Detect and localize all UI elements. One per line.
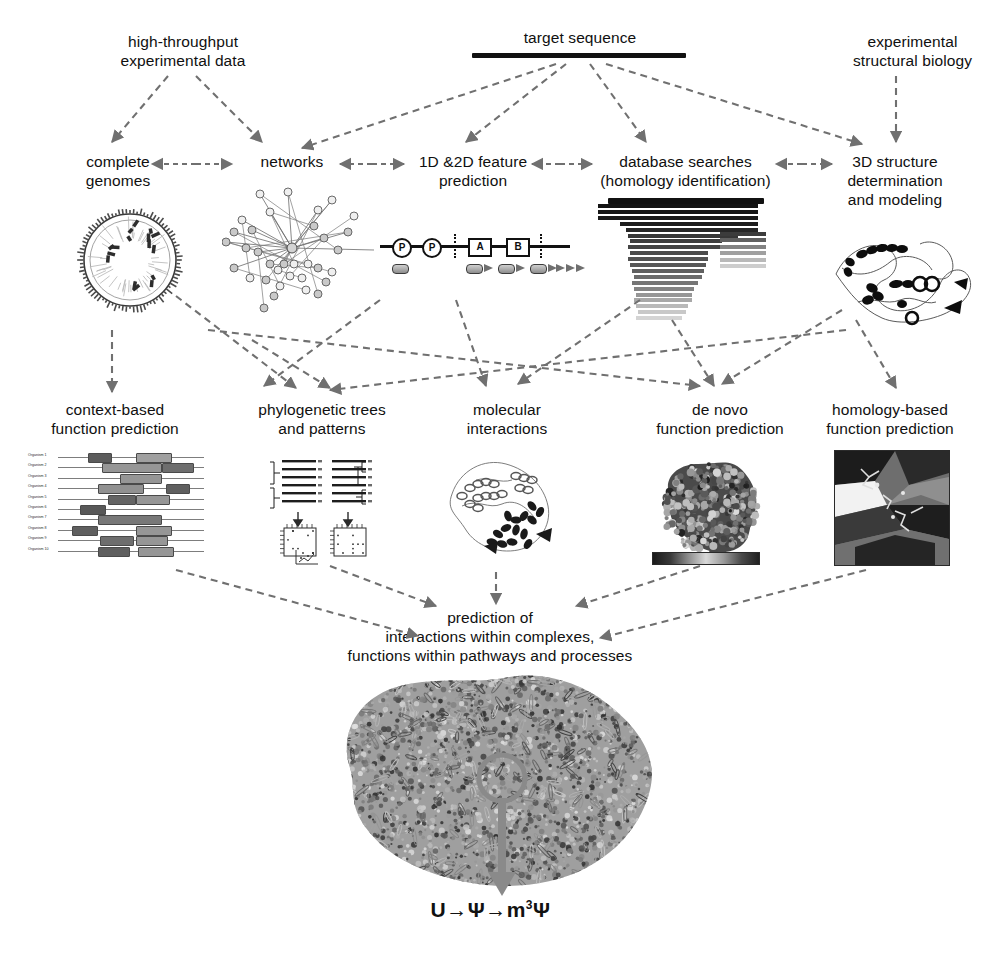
phospho-site-1: P xyxy=(392,238,412,258)
blast-hit-bar xyxy=(636,304,688,308)
strand-arrow xyxy=(556,264,565,272)
gene-box xyxy=(136,526,172,536)
homology-model-closeup xyxy=(834,450,950,566)
helix-cylinder xyxy=(498,264,515,274)
page-title: target sequence xyxy=(470,28,690,47)
organism-label: Organism 1 xyxy=(28,453,47,457)
gene-box xyxy=(80,505,106,515)
gene-box xyxy=(98,547,130,557)
chem-sup: 3 xyxy=(526,898,533,912)
organism-label: Organism 7 xyxy=(28,515,47,519)
gene-box xyxy=(72,526,98,536)
gene-box xyxy=(102,463,162,473)
strand-arrow xyxy=(484,264,493,272)
molecular-complex-ribbon xyxy=(432,450,564,562)
modification-site-circle xyxy=(290,672,690,912)
blast-hit-bar-secondary xyxy=(720,245,766,249)
organism-label: Organism 9 xyxy=(28,536,47,540)
gene-box xyxy=(100,536,134,546)
label-feature-prediction: 1D &2D feature prediction xyxy=(398,152,548,190)
organism-label: Organism 4 xyxy=(28,484,47,488)
blast-hit-bar-secondary xyxy=(720,232,766,236)
gene-box xyxy=(108,495,136,505)
blast-hit-bar-secondary xyxy=(720,251,766,255)
strand-arrow xyxy=(566,264,575,272)
blast-hit-bar xyxy=(634,275,702,279)
blast-hit-bar xyxy=(598,210,758,214)
strand-arrow xyxy=(576,264,585,272)
blast-hit-bar xyxy=(628,245,726,249)
blast-hit-bar xyxy=(634,287,694,291)
blast-hit-bar xyxy=(636,293,692,297)
domain-b: B xyxy=(506,238,530,257)
label-high-throughput: high-throughput experimental data xyxy=(88,32,278,70)
diagram-canvas: high-throughput experimental data target… xyxy=(0,0,981,957)
blast-hit-bar xyxy=(638,310,686,314)
organism-label: Organism 5 xyxy=(28,495,47,499)
blast-hit-bar-secondary xyxy=(720,264,766,268)
target-sequence-underline xyxy=(472,53,686,58)
sequence-feature-track: P P A B xyxy=(380,232,570,280)
blast-hit-bar xyxy=(628,257,708,261)
blast-hit-bar xyxy=(598,204,758,208)
circular-genome-map xyxy=(68,198,192,322)
organism-label: Organism 6 xyxy=(28,505,47,509)
gene-box xyxy=(120,474,162,484)
domain-a: A xyxy=(468,238,492,257)
label-prediction-summary: prediction of interactions within comple… xyxy=(250,608,730,665)
molecular-surface-model xyxy=(648,456,768,556)
label-phylogenetic-trees: phylogenetic trees and patterns xyxy=(232,400,412,438)
label-context-based: context-based function prediction xyxy=(20,400,210,438)
helix-cylinder xyxy=(530,264,547,274)
gene-box xyxy=(136,495,170,505)
label-homology-based: homology-based function prediction xyxy=(800,400,980,438)
blast-hit-bar xyxy=(630,251,708,255)
blast-hit-bar xyxy=(620,222,758,226)
gene-box xyxy=(162,463,194,473)
blast-hit-bar xyxy=(636,316,682,320)
label-experimental-structural-biology: experimental structural biology xyxy=(820,32,981,70)
organism-label: Organism 3 xyxy=(28,474,47,478)
blast-hit-bar-secondary xyxy=(720,238,766,242)
phylogenetic-tree-and-matrix xyxy=(268,452,380,568)
gene-box xyxy=(138,547,174,557)
domain-boundary-right xyxy=(540,234,542,258)
blast-hit-bar xyxy=(626,228,758,232)
blast-hit-bar xyxy=(634,298,692,302)
genome-axis xyxy=(58,551,204,552)
gene-box xyxy=(98,484,144,494)
gene-box xyxy=(166,484,190,494)
organism-label: Organism 10 xyxy=(28,547,49,551)
gene-neighborhood-alignment: Organism 1Organism 2Organism 3Organism 4… xyxy=(28,452,204,558)
label-complete-genomes: complete genomes xyxy=(58,152,178,190)
helix-cylinder xyxy=(466,264,483,274)
gene-box xyxy=(136,453,172,463)
blast-hit-bar xyxy=(630,263,706,267)
domain-boundary-left xyxy=(454,234,456,258)
chem-post: Ψ xyxy=(533,898,551,921)
chem-pre: U→Ψ→m xyxy=(430,898,525,921)
blast-hit-bars xyxy=(598,204,783,329)
genome-axis xyxy=(58,457,204,458)
protein-interaction-network xyxy=(222,186,382,336)
strand-arrow xyxy=(516,264,525,272)
blast-hit-bar xyxy=(632,281,698,285)
label-networks: networks xyxy=(232,152,352,171)
blast-hit-bar xyxy=(632,269,704,273)
organism-label: Organism 8 xyxy=(28,526,47,530)
label-molecular-interactions: molecular interactions xyxy=(432,400,582,438)
blast-hit-bar xyxy=(630,239,722,243)
helix-cylinder xyxy=(392,264,409,274)
blast-hit-bar-secondary xyxy=(720,258,766,262)
gene-box xyxy=(136,536,168,546)
gene-box xyxy=(88,453,112,463)
label-de-novo: de novo function prediction xyxy=(630,400,810,438)
label-database-searches: database searches (homology identificati… xyxy=(578,152,793,190)
gene-box xyxy=(98,515,162,525)
chemical-annotation: U→Ψ→m3Ψ xyxy=(0,898,981,922)
protein-ribbon-cartoon xyxy=(828,222,978,332)
phospho-site-2: P xyxy=(422,238,442,258)
blast-hit-bar xyxy=(598,216,758,220)
organism-label: Organism 2 xyxy=(28,463,47,467)
label-structure-determination: 3D structure determination and modeling xyxy=(820,152,970,209)
